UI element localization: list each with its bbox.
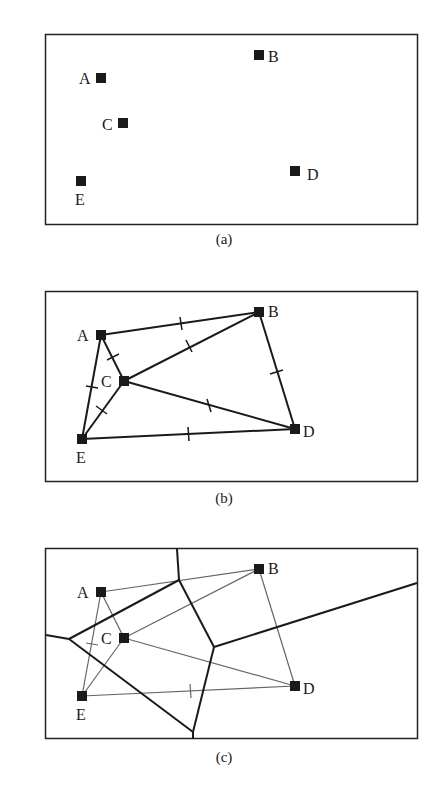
svg-text:E: E	[76, 706, 86, 723]
point-D: D	[290, 680, 315, 697]
svg-text:C: C	[101, 630, 112, 647]
svg-text:B: B	[268, 560, 279, 577]
panel-c-figure: A B C D E	[0, 0, 448, 806]
point-E: E	[76, 691, 87, 723]
bisector-ticks	[86, 643, 191, 698]
svg-text:A: A	[77, 584, 89, 601]
caption-c: (c)	[0, 749, 448, 766]
point-B: B	[254, 560, 279, 577]
point-C: C	[101, 630, 129, 647]
point-A: A	[77, 584, 106, 601]
svg-text:D: D	[303, 680, 315, 697]
panel-c: A B C D E (c)	[0, 0, 448, 806]
